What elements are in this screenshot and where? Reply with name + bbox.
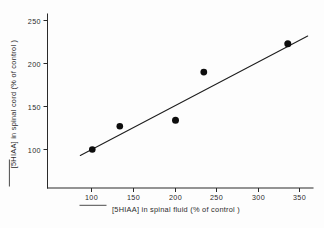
x-axis-title-group: [5HIAA] in spinal fluid (% of control )	[80, 205, 241, 214]
data-points	[89, 40, 291, 153]
x-tick-label-300: 300	[252, 193, 265, 202]
x-tick-label-100: 100	[85, 193, 98, 202]
y-axis-ticks	[44, 21, 48, 150]
regression-line	[80, 36, 307, 156]
y-tick-label-100: 100	[28, 146, 41, 155]
x-axis-tick-labels: 100 150 200 250 300 350	[85, 193, 306, 202]
data-point	[172, 117, 179, 124]
y-tick-label-200: 200	[28, 60, 41, 69]
x-tick-label-250: 250	[210, 193, 223, 202]
y-tick-label-150: 150	[28, 103, 41, 112]
y-axis-title-group: [5HIAA] in spinal cord (% of control )	[9, 40, 18, 187]
x-tick-label-350: 350	[293, 193, 306, 202]
scatter-plot-figure: 250 200 150 100 100 150 200 250 300 350	[0, 0, 324, 228]
data-point	[89, 146, 96, 153]
data-point	[117, 123, 124, 130]
y-axis-title: [5HIAA] in spinal cord (% of control )	[9, 40, 18, 169]
data-point	[200, 69, 207, 76]
x-tick-label-200: 200	[169, 193, 182, 202]
x-axis-ticks	[92, 188, 300, 192]
x-axis-title: [5HIAA] in spinal fluid (% of control )	[112, 205, 240, 214]
y-tick-label-250: 250	[28, 17, 41, 26]
data-point	[284, 40, 291, 47]
y-axis-tick-labels: 250 200 150 100	[28, 17, 41, 155]
plot-canvas: 250 200 150 100 100 150 200 250 300 350	[0, 0, 324, 228]
x-tick-label-150: 150	[127, 193, 140, 202]
